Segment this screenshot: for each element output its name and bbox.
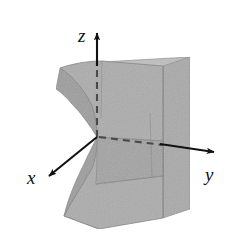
surface-group: [56, 57, 190, 229]
z-axis-label: z: [77, 25, 86, 46]
surface-right-panel: [163, 57, 190, 218]
x-axis-label: x: [26, 167, 36, 188]
surface-plot-figure: z y x: [0, 0, 239, 243]
surface-plot-canvas: z y x: [0, 0, 239, 243]
y-axis-label: y: [203, 164, 214, 185]
